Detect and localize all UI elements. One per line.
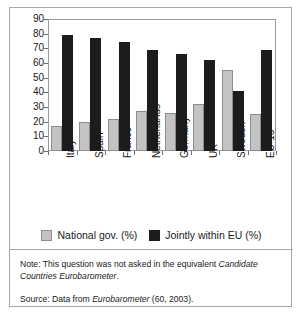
note-italic-countries-eurobarometer: Countries Eurobarometer xyxy=(20,271,117,281)
legend-swatch-national xyxy=(41,230,52,241)
source-prefix: Source: Data from xyxy=(20,294,92,304)
x-tick-label: EU-15 xyxy=(266,130,276,158)
note-text: Note: This question was not asked in the… xyxy=(20,258,286,270)
x-tick-label: Netherlands xyxy=(152,104,162,158)
note-text-line2: Countries Eurobarometer. xyxy=(20,270,286,282)
y-tick-mark xyxy=(44,19,48,20)
legend-entry-2: Jointly within EU (%) xyxy=(149,230,261,241)
x-tick-mark xyxy=(276,151,277,155)
legend-label: National gov. (%) xyxy=(57,230,137,241)
chart-legend: National gov. (%)Jointly within EU (%) xyxy=(10,226,293,244)
y-tick-mark xyxy=(44,78,48,79)
y-tick-mark xyxy=(44,34,48,35)
y-tick-mark xyxy=(44,107,48,108)
section-divider xyxy=(10,249,293,250)
x-tick-mark xyxy=(134,151,135,155)
y-tick-mark xyxy=(44,63,48,64)
source-text: Source: Data from Eurobarometer (60, 200… xyxy=(20,293,286,305)
figure-frame: 9080706050403020100 ItalySpainFranceNeth… xyxy=(9,7,292,307)
legend-swatch-joint xyxy=(149,230,160,241)
legend-label: Jointly within EU (%) xyxy=(165,230,261,241)
x-tick-label: Sweden xyxy=(237,122,247,158)
x-tick-mark xyxy=(105,151,106,155)
x-tick-mark xyxy=(48,151,49,155)
y-tick-mark xyxy=(44,151,48,152)
note-prefix: Note: This question was not asked in the… xyxy=(20,259,219,269)
x-tick-label: Italy xyxy=(66,140,76,158)
x-tick-label: France xyxy=(123,127,133,158)
legend-entry-1: National gov. (%) xyxy=(41,230,137,241)
footnotes: Note: This question was not asked in the… xyxy=(20,258,286,305)
y-tick-mark xyxy=(44,92,48,93)
x-axis: ItalySpainFranceNetherlandsGermanyUKSwed… xyxy=(10,8,293,220)
note-suffix: . xyxy=(117,271,119,281)
x-tick-mark xyxy=(248,151,249,155)
source-suffix: (60, 2003). xyxy=(149,294,193,304)
y-tick-mark xyxy=(44,48,48,49)
y-tick-mark xyxy=(44,136,48,137)
source-italic-eurobarometer: Eurobarometer xyxy=(92,294,149,304)
x-tick-mark xyxy=(191,151,192,155)
x-tick-label: Spain xyxy=(95,132,105,158)
x-tick-mark xyxy=(77,151,78,155)
x-tick-label: UK xyxy=(209,144,219,158)
x-tick-label: Germany xyxy=(180,117,190,158)
x-tick-mark xyxy=(162,151,163,155)
x-tick-mark xyxy=(219,151,220,155)
y-tick-mark xyxy=(44,122,48,123)
bar-chart: 9080706050403020100 ItalySpainFranceNeth… xyxy=(10,8,293,220)
note-italic-candidate: Candidate xyxy=(219,259,258,269)
